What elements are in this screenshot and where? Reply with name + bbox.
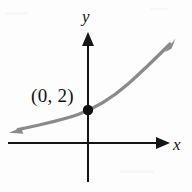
y-intercept-point bbox=[83, 105, 93, 115]
x-axis-label: x bbox=[173, 136, 181, 153]
point-coordinate-label: (0, 2) bbox=[31, 86, 74, 105]
curve-left-arrowhead bbox=[9, 127, 24, 134]
graph-canvas bbox=[0, 0, 192, 192]
math-figure: y x (0, 2) bbox=[0, 0, 192, 192]
y-axis-label: y bbox=[82, 8, 90, 25]
